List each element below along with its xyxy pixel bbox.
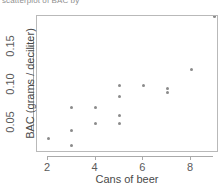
y-axis-title: BAC (grams / deciliter) — [24, 4, 37, 164]
data-point — [118, 114, 121, 117]
x-axis-line — [47, 156, 213, 157]
data-point — [118, 84, 121, 87]
data-point — [190, 68, 193, 71]
x-axis-tick — [47, 156, 48, 160]
data-point — [166, 91, 169, 94]
data-point — [142, 84, 145, 87]
data-point — [70, 144, 73, 147]
y-axis-tick-label: 0.15 — [3, 26, 17, 66]
y-axis-tick-label: 0.05 — [3, 102, 17, 142]
data-point — [94, 106, 97, 109]
plot-area — [36, 15, 218, 152]
x-axis-tick — [142, 156, 143, 160]
x-axis-tick — [190, 156, 191, 160]
x-axis-title: Cans of beer — [36, 173, 218, 186]
data-point — [118, 122, 121, 125]
data-point — [70, 106, 73, 109]
data-points-layer — [37, 16, 217, 151]
x-axis-tick — [95, 156, 96, 160]
data-point — [213, 16, 216, 18]
data-point — [118, 95, 121, 98]
y-axis-tick-label: 0.10 — [3, 64, 17, 104]
scatterplot-figure: scatterplot of BAC by 2468 0.050.100.15 … — [0, 0, 224, 187]
data-point — [70, 129, 73, 132]
data-point — [47, 137, 50, 140]
data-point — [94, 122, 97, 125]
data-point — [166, 87, 169, 90]
